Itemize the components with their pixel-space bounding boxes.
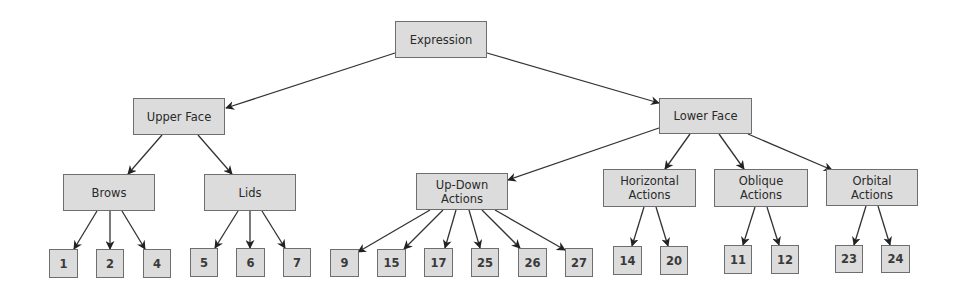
leaf-label: 11 <box>730 253 746 267</box>
node-orbital-actions: Orbital Actions <box>826 169 918 206</box>
edge-up_down-to-au17 <box>445 210 456 248</box>
leaf-au-9: 9 <box>330 249 359 277</box>
node-brows: Brows <box>63 174 155 211</box>
edge-upper_face-to-brows <box>128 135 162 174</box>
leaf-au-15: 15 <box>377 249 406 277</box>
leaf-au-5: 5 <box>190 248 218 277</box>
edge-expression-to-upper_face <box>226 53 395 108</box>
leaf-label: 23 <box>841 252 857 266</box>
leaf-label: 7 <box>293 256 301 270</box>
leaf-label: 24 <box>887 252 903 266</box>
edge-lower_face-to-horizontal <box>665 134 690 169</box>
node-label: Orbital Actions <box>847 174 897 202</box>
leaf-au-17: 17 <box>424 248 453 277</box>
leaf-label: 17 <box>430 256 446 270</box>
leaf-au-6: 6 <box>236 248 265 277</box>
leaf-au-26: 26 <box>518 248 547 277</box>
edge-up_down-to-au9 <box>358 210 430 252</box>
node-lids: Lids <box>204 174 296 211</box>
leaf-label: 12 <box>777 253 793 267</box>
node-up-down-actions: Up-Down Actions <box>416 173 508 210</box>
edge-orbital-to-au23 <box>854 206 866 245</box>
node-expression: Expression <box>395 21 487 58</box>
leaf-au-27: 27 <box>565 248 593 277</box>
expression-tree-diagram: Expression Upper Face Lower Face Brows L… <box>0 0 965 295</box>
edge-lids-to-au5 <box>215 211 238 248</box>
leaf-label: 20 <box>666 254 682 268</box>
node-label: Up-Down Actions <box>432 178 492 206</box>
leaf-label: 25 <box>477 256 493 270</box>
edge-expression-to-lower_face <box>487 53 659 103</box>
leaf-au-25: 25 <box>471 248 499 277</box>
node-lower-face: Lower Face <box>659 98 752 134</box>
leaf-label: 27 <box>571 256 587 270</box>
leaf-label: 1 <box>59 257 67 271</box>
node-label: Oblique Actions <box>734 174 789 202</box>
edge-lids-to-au7 <box>262 211 285 248</box>
edge-up_down-to-au26 <box>482 210 520 248</box>
leaf-label: 2 <box>106 257 114 271</box>
leaf-au-24: 24 <box>881 245 910 273</box>
node-label: Lids <box>239 186 262 200</box>
edge-orbital-to-au24 <box>878 206 890 245</box>
leaf-label: 5 <box>200 256 208 270</box>
leaf-au-1: 1 <box>49 249 78 278</box>
edge-lower_face-to-oblique <box>719 134 744 169</box>
node-label: Upper Face <box>147 110 211 124</box>
leaf-au-23: 23 <box>835 245 863 273</box>
node-upper-face: Upper Face <box>133 98 225 135</box>
leaf-au-14: 14 <box>613 246 642 275</box>
edge-brows-to-au4 <box>122 211 145 249</box>
leaf-au-12: 12 <box>771 245 799 274</box>
edge-horizontal-to-au14 <box>632 207 644 246</box>
leaf-au-4: 4 <box>143 249 171 278</box>
edge-up_down-to-au15 <box>404 210 443 249</box>
leaf-au-20: 20 <box>660 246 688 275</box>
edge-up_down-to-au25 <box>469 210 480 248</box>
edge-oblique-to-au12 <box>767 207 779 245</box>
leaf-label: 6 <box>246 256 254 270</box>
node-horizontal-actions: Horizontal Actions <box>603 169 696 207</box>
leaf-label: 26 <box>524 256 540 270</box>
edge-up_down-to-au27 <box>495 210 565 250</box>
leaf-au-7: 7 <box>283 248 311 277</box>
leaf-label: 15 <box>383 256 399 270</box>
edge-oblique-to-au11 <box>743 207 755 245</box>
edge-lower_face-to-orbital <box>748 134 832 170</box>
node-oblique-actions: Oblique Actions <box>714 169 808 207</box>
edge-upper_face-to-lids <box>198 135 232 174</box>
leaf-label: 4 <box>153 257 161 271</box>
node-label: Lower Face <box>673 109 737 123</box>
node-label: Expression <box>410 33 472 47</box>
edge-horizontal-to-au20 <box>656 207 668 246</box>
leaf-label: 14 <box>619 254 635 268</box>
node-label: Horizontal Actions <box>612 174 687 202</box>
leaf-au-11: 11 <box>724 245 752 274</box>
leaf-label: 9 <box>340 256 348 270</box>
node-label: Brows <box>92 186 127 200</box>
edge-brows-to-au1 <box>74 211 97 249</box>
leaf-au-2: 2 <box>96 249 124 278</box>
